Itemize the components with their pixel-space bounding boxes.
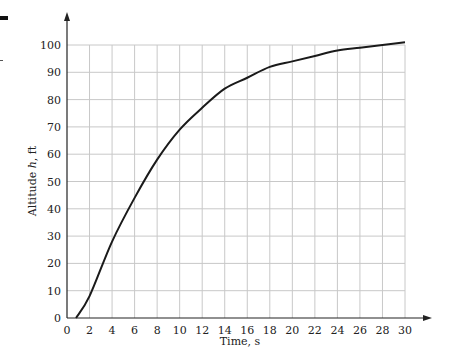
x-tick-label: 4 xyxy=(109,324,116,337)
x-tick-label: 26 xyxy=(353,324,367,337)
x-tick-label: 24 xyxy=(330,324,344,337)
axes xyxy=(64,12,432,321)
x-tick-label: 30 xyxy=(398,324,412,337)
y-tick-label: 0 xyxy=(54,312,61,325)
y-tick-label: 30 xyxy=(47,230,61,243)
x-tick-label: 10 xyxy=(173,324,187,337)
y-axis-arrow-icon xyxy=(64,12,70,21)
x-tick-label: 0 xyxy=(64,324,71,337)
x-tick-label: 22 xyxy=(308,324,322,337)
altitude-time-chart: 024681012141618202224262830 010203040506… xyxy=(0,0,451,364)
y-tick-label: 90 xyxy=(47,66,61,79)
x-axis-label: Time, s xyxy=(220,335,261,348)
y-tick-label: 10 xyxy=(47,285,61,298)
y-tick-label: 60 xyxy=(47,148,61,161)
x-tick-label: 6 xyxy=(131,324,138,337)
y-tick-labels: 0102030405060708090100 xyxy=(40,39,61,325)
y-tick-label: 20 xyxy=(47,257,61,270)
y-tick-label: 80 xyxy=(47,94,61,107)
x-tick-label: 18 xyxy=(263,324,277,337)
x-tick-label: 8 xyxy=(154,324,161,337)
x-tick-label: 2 xyxy=(86,324,93,337)
y-tick-label: 40 xyxy=(47,203,61,216)
x-tick-label: 28 xyxy=(375,324,389,337)
grid-lines xyxy=(67,45,405,318)
y-axis-label: Altitude h, ft xyxy=(26,145,39,217)
altitude-curve xyxy=(76,42,405,318)
y-tick-label: 70 xyxy=(47,121,61,134)
y-tick-label: 100 xyxy=(40,39,61,52)
y-tick-label: 50 xyxy=(47,176,61,189)
x-tick-label: 20 xyxy=(285,324,299,337)
x-axis-arrow-icon xyxy=(423,315,432,321)
x-tick-label: 12 xyxy=(195,324,209,337)
